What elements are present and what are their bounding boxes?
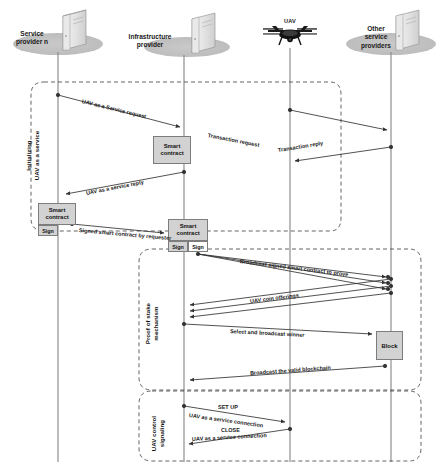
phase-label-initializing: Initializing UAV as a service: [25, 117, 40, 195]
sequence-diagram-canvas: Service provider n Infrastructure provid…: [0, 0, 438, 469]
drone-icon-shape: [263, 26, 317, 45]
sign-box-2a[interactable]: Sign: [38, 225, 58, 236]
diagram-vector-layer: [0, 0, 438, 469]
message-label-set-up: SET UP: [218, 404, 238, 410]
phase-label-proof-of-stake: Proof of stake mechanism: [144, 285, 159, 363]
actor-label-infrastructure-provider: Infrastructure provider: [112, 33, 188, 50]
smart-contract-box-3[interactable]: Smart contract: [168, 219, 208, 241]
phase-label-uav-control-signaling: UAV control signaling: [150, 403, 165, 465]
block-box[interactable]: Block: [376, 331, 403, 360]
actor-label-other-service-providers: Other service providers: [352, 25, 400, 50]
sign-box-3a[interactable]: Sign: [168, 241, 188, 252]
actor-label-service-provider-n: Service provider n: [4, 30, 60, 47]
message-label-close: CLOSE: [221, 427, 240, 433]
smart-contract-box-2[interactable]: Smart contract: [38, 203, 76, 225]
smart-contract-box-1[interactable]: Smart contract: [153, 136, 191, 164]
phase-frame-uav-control-signaling: [139, 391, 421, 461]
actor-label-uav: UAV: [270, 18, 310, 24]
sign-box-3b[interactable]: Sign: [188, 241, 208, 252]
